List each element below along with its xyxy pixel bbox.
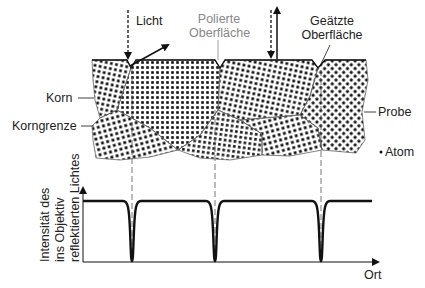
y-axis-label: Intensität des ins Objektiv reflektierte… [38,154,83,262]
etched-surface-label: Geätzte Oberfläche [300,14,364,42]
sample-label: Probe [378,105,411,119]
atom-label: Atom [385,145,414,159]
polished-surface-label: Polierte Oberfläche [189,12,249,40]
light-beam-center [271,8,277,59]
grain-label: Korn [46,91,72,105]
intensity-chart [83,188,378,262]
light-label: Licht [136,14,162,28]
atom-dot [380,151,383,154]
sample-grains [92,60,368,160]
grain-boundary-label: Korngrenze [12,119,77,133]
x-axis-label: Ort [364,268,381,282]
intensity-curve [83,201,372,261]
